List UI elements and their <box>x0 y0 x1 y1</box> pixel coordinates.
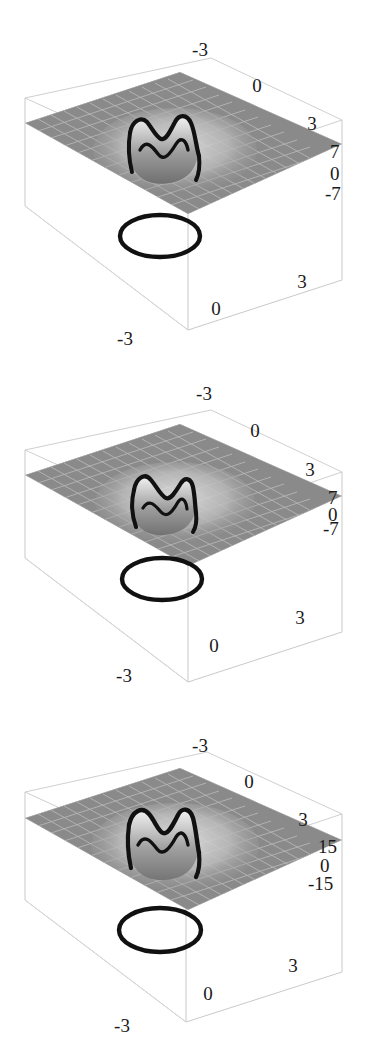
z-tick-zero: 0 <box>330 163 340 184</box>
y-tick-0: 0 <box>252 75 262 96</box>
z-tick-max: 15 <box>318 836 337 857</box>
x-tick-0: 0 <box>211 298 221 319</box>
lower-contour-ellipse <box>122 558 202 600</box>
y-tick-3: 3 <box>305 459 315 480</box>
x-tick-3: 3 <box>295 607 305 628</box>
x-tick-minus3: -3 <box>116 665 132 686</box>
y-tick-minus3: -3 <box>192 39 208 60</box>
x-tick-3: 3 <box>288 955 298 976</box>
x-tick-3: 3 <box>297 271 307 292</box>
y-tick-0: 0 <box>244 771 254 792</box>
y-tick-3: 3 <box>307 113 317 134</box>
surface-plot-panel-1: -3 0 3 7 0 -7 3 0 -3 <box>0 0 367 350</box>
figure-panel-stack: -3 0 3 7 0 -7 3 0 -3 <box>0 0 367 1050</box>
surface-plot-panel-2: -3 0 3 7 0 -7 3 0 -3 <box>0 352 367 702</box>
y-tick-minus3: -3 <box>192 735 208 756</box>
z-tick-max: 7 <box>330 141 340 162</box>
y-tick-0: 0 <box>250 420 260 441</box>
z-tick-min: -15 <box>308 873 333 894</box>
z-tick-min: -7 <box>323 518 339 539</box>
z-tick-min: -7 <box>325 183 341 204</box>
x-tick-minus3: -3 <box>114 1015 130 1036</box>
y-tick-3: 3 <box>298 809 308 830</box>
x-tick-0: 0 <box>203 983 213 1004</box>
surface-plot-panel-3: -3 0 3 15 0 -15 3 0 -3 <box>0 700 367 1050</box>
lower-contour-ellipse <box>119 908 201 952</box>
x-tick-0: 0 <box>209 635 219 656</box>
x-tick-minus3: -3 <box>117 328 133 349</box>
y-tick-minus3: -3 <box>196 383 212 404</box>
